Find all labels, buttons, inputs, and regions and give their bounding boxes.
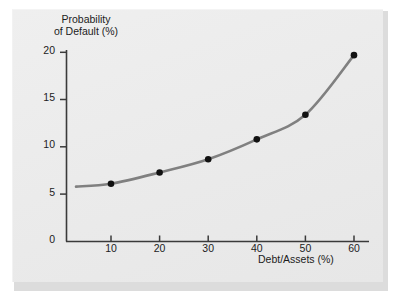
x-tick-label-10: 10 bbox=[100, 243, 122, 255]
y-tick-label-20: 20 bbox=[33, 45, 55, 57]
x-tick-label-30: 30 bbox=[197, 243, 219, 255]
chart-svg bbox=[0, 0, 396, 301]
y-axis-title: Probability of Default (%) bbox=[38, 14, 134, 38]
data-point-40 bbox=[253, 136, 260, 143]
x-axis-title: Debt/Assets (%) bbox=[258, 254, 334, 266]
series-line-probability-of-default bbox=[76, 55, 354, 186]
x-tick-label-50: 50 bbox=[294, 243, 316, 255]
x-tick-label-60: 60 bbox=[343, 243, 365, 255]
x-tick-marks bbox=[111, 236, 354, 242]
chart-plot-area bbox=[0, 0, 396, 301]
data-point-10 bbox=[108, 180, 115, 187]
y-tick-label-0: 0 bbox=[33, 234, 55, 246]
y-tick-label-5: 5 bbox=[33, 187, 55, 199]
y-tick-label-15: 15 bbox=[33, 92, 55, 104]
x-tick-label-40: 40 bbox=[246, 243, 268, 255]
y-axis-title-line2: of Default (%) bbox=[38, 26, 134, 38]
y-tick-label-10: 10 bbox=[33, 139, 55, 151]
series-markers-probability-of-default bbox=[108, 52, 358, 187]
y-tick-marks bbox=[60, 52, 66, 194]
screenshot-root: Probability of Default (%) Debt/Assets (… bbox=[0, 0, 396, 301]
data-point-30 bbox=[205, 156, 212, 163]
data-point-50 bbox=[302, 111, 309, 118]
data-point-60 bbox=[351, 52, 358, 59]
data-point-20 bbox=[156, 169, 163, 176]
y-axis-title-line1: Probability bbox=[38, 14, 134, 26]
x-tick-label-20: 20 bbox=[149, 243, 171, 255]
